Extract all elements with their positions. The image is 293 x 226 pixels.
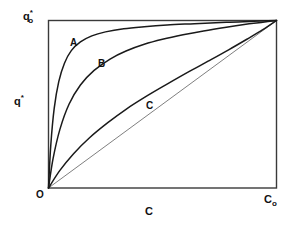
curve-label-a: A	[70, 38, 77, 48]
curve-label-c: C	[146, 101, 153, 111]
figure-container: q*o q* O Co C A B C	[0, 0, 293, 226]
x-axis-max-base: C	[264, 193, 272, 205]
x-axis-max-subscript: o	[272, 199, 277, 208]
y-axis-title: q*	[14, 92, 24, 108]
y-axis-title-base: q	[14, 95, 21, 107]
x-axis-title: C	[145, 206, 153, 217]
origin-label: O	[36, 190, 44, 200]
x-axis-max-label: Co	[264, 190, 277, 206]
y-axis-max-label: q*o	[23, 7, 38, 23]
curve-label-b: B	[98, 59, 105, 69]
y-axis-title-superscript: *	[21, 93, 24, 102]
y-axis-max-subscript: o	[28, 16, 33, 25]
